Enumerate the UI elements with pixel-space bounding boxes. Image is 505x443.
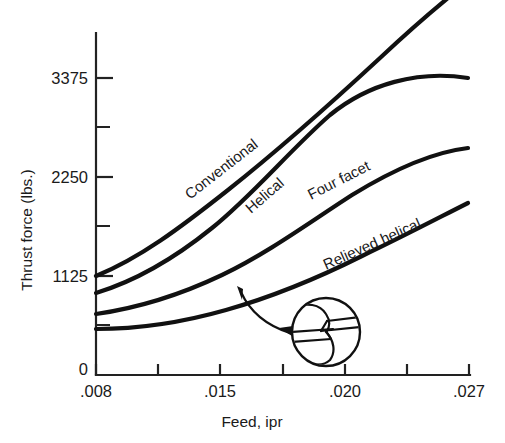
y-axis-title: Thrust force (lbs.) (18, 169, 35, 290)
drill-point-inset (292, 298, 361, 366)
y-tick-label-2250: 2250 (51, 168, 88, 186)
x-tick-label-008: .008 (80, 382, 112, 400)
y-axis (96, 33, 113, 375)
y-tick-label-3375: 3375 (51, 69, 88, 87)
x-tick-label-015: .015 (204, 382, 236, 400)
callout-arrow (237, 286, 293, 336)
y-tick-label-1125: 1125 (53, 267, 88, 285)
curve-label-relieved-helical: Relieved helical (320, 214, 423, 272)
curve-label-four-facet: Four facet (305, 156, 374, 202)
y-tick-labels: 3375 2250 1125 0 (51, 69, 88, 378)
x-tick-labels: .008 .015 .020 .027 (80, 382, 485, 400)
thrust-force-vs-feed-chart: 3375 2250 1125 0 .008 .015 .020 .027 Thr… (0, 0, 505, 443)
x-axis (96, 364, 470, 375)
chart-canvas: 3375 2250 1125 0 .008 .015 .020 .027 Thr… (0, 0, 505, 443)
x-axis-title: Feed, ipr (221, 413, 282, 430)
y-tick-label-0: 0 (79, 360, 88, 378)
callout-arrow-head-up (237, 286, 243, 300)
x-tick-label-020: .020 (329, 382, 361, 400)
x-tick-label-027: .027 (453, 382, 485, 400)
